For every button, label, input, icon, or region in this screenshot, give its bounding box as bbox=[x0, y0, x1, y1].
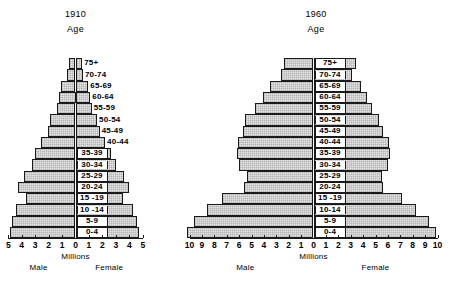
age-band-label: 45-49 bbox=[102, 127, 133, 136]
bar-female-5-9 bbox=[314, 216, 429, 227]
bar-female-45-49 bbox=[314, 126, 383, 137]
bar-female-10 -14 bbox=[76, 204, 134, 215]
x-axis-tick-label: 3 bbox=[106, 240, 126, 250]
age-band-label: 70-74 bbox=[85, 71, 116, 80]
bar-male-70-74 bbox=[67, 69, 75, 80]
age-band-label: 25-29 bbox=[77, 172, 108, 181]
x-axis-tick-label: 2 bbox=[279, 240, 299, 250]
bar-female-15 -19 bbox=[76, 193, 123, 204]
bar-male-5-9 bbox=[12, 216, 76, 227]
age-band-label: 35-39 bbox=[315, 149, 346, 158]
x-axis-tick-mark bbox=[276, 235, 277, 238]
x-axis-tick-mark bbox=[351, 235, 352, 238]
bar-female-40-44 bbox=[314, 137, 390, 148]
age-band-label: 30-34 bbox=[315, 161, 346, 170]
bar-female-5-9 bbox=[76, 216, 138, 227]
bar-male-65-69 bbox=[61, 81, 76, 92]
x-axis-tick-mark bbox=[129, 235, 130, 238]
x-axis-tick-mark bbox=[264, 235, 265, 238]
x-axis-tick-mark bbox=[8, 235, 9, 238]
age-band-label: 0-4 bbox=[77, 228, 108, 237]
male-side-label: Male bbox=[220, 263, 270, 272]
age-axis-title: Age bbox=[36, 24, 116, 34]
x-axis-tick-label: 3 bbox=[341, 240, 361, 250]
bar-male-25-29 bbox=[247, 171, 314, 182]
x-axis-tick-mark bbox=[22, 235, 23, 238]
bar-male-70-74 bbox=[281, 69, 313, 80]
bar-female-0-4 bbox=[314, 227, 437, 238]
x-axis-tick-label: 1 bbox=[316, 240, 336, 250]
x-axis-tick-label: 1 bbox=[291, 240, 311, 250]
age-band-label: 40-44 bbox=[315, 138, 346, 147]
bar-female-75+ bbox=[314, 58, 356, 69]
x-axis-tick-mark bbox=[413, 235, 414, 238]
x-axis-tick-label: 1 bbox=[79, 240, 99, 250]
bar-female-35-39 bbox=[76, 148, 112, 159]
bar-male-75+ bbox=[69, 58, 76, 69]
age-band-label: 55-59 bbox=[94, 104, 125, 113]
age-band-label: 75+ bbox=[84, 59, 115, 68]
bar-female-45-49 bbox=[76, 126, 100, 137]
x-axis-tick-mark bbox=[239, 235, 240, 238]
x-axis-tick-mark bbox=[116, 235, 117, 238]
chart-title-year: 1910 bbox=[36, 9, 116, 19]
x-axis-tick-label: 5 bbox=[242, 240, 262, 250]
x-axis-tick-label: 2 bbox=[328, 240, 348, 250]
age-band-label: 55-59 bbox=[315, 104, 346, 113]
x-axis-tick-mark bbox=[35, 235, 36, 238]
bar-female-30-34 bbox=[314, 159, 388, 170]
bar-male-15 -19 bbox=[222, 193, 314, 204]
bar-male-55-59 bbox=[255, 103, 313, 114]
bar-female-70-74 bbox=[314, 69, 352, 80]
age-band-label: 10-14 bbox=[315, 206, 346, 215]
age-band-label: 40-44 bbox=[107, 138, 138, 147]
age-band-label: 60-64 bbox=[92, 93, 123, 102]
chart-title-year: 1960 bbox=[276, 9, 356, 19]
x-axis-tick-mark bbox=[252, 235, 253, 238]
age-band-label: 20-24 bbox=[77, 183, 108, 192]
population-pyramid-figure: 1910Age0-45-910 -1415 -1920-2425-2930-34… bbox=[0, 0, 451, 281]
x-axis-tick-mark bbox=[363, 235, 364, 238]
bar-female-20-24 bbox=[76, 182, 129, 193]
bar-male-60-64 bbox=[263, 92, 314, 103]
zero-axis-line bbox=[76, 58, 77, 238]
x-axis-tick-label: 7 bbox=[217, 240, 237, 250]
bar-male-30-34 bbox=[239, 159, 313, 170]
x-axis-tick-mark bbox=[326, 235, 327, 238]
bar-male-75+ bbox=[284, 58, 314, 69]
age-band-label: 75+ bbox=[315, 59, 346, 68]
bar-male-20-24 bbox=[244, 182, 313, 193]
bar-female-55-59 bbox=[76, 103, 92, 114]
bar-male-55-59 bbox=[57, 103, 75, 114]
bar-male-65-69 bbox=[270, 81, 313, 92]
x-axis-tick-mark bbox=[388, 235, 389, 238]
female-side-label: Female bbox=[84, 263, 134, 272]
female-side-label: Female bbox=[351, 263, 401, 272]
bar-female-60-64 bbox=[314, 92, 367, 103]
x-axis-tick-label: 10 bbox=[180, 240, 200, 250]
age-band-label: 65-69 bbox=[90, 82, 121, 91]
male-side-label: Male bbox=[14, 263, 64, 272]
x-axis-tick-label: 7 bbox=[390, 240, 410, 250]
x-axis-tick-label: 0 bbox=[304, 240, 324, 250]
x-axis-tick-label: 8 bbox=[204, 240, 224, 250]
x-axis-tick-label: 4 bbox=[353, 240, 373, 250]
x-axis-tick-mark bbox=[338, 235, 339, 238]
x-axis-tick-label: 3 bbox=[25, 240, 45, 250]
bar-male-35-39 bbox=[35, 148, 75, 159]
x-axis-tick-mark bbox=[89, 235, 90, 238]
x-axis-tick-mark bbox=[438, 235, 439, 238]
bar-male-30-34 bbox=[32, 159, 76, 170]
x-axis-tick-label: 5 bbox=[133, 240, 153, 250]
bar-female-20-24 bbox=[314, 182, 383, 193]
x-axis-tick-label: 4 bbox=[254, 240, 274, 250]
bar-male-20-24 bbox=[18, 182, 75, 193]
x-axis-tick-label: 9 bbox=[415, 240, 435, 250]
age-band-label: 15 -19 bbox=[315, 194, 346, 203]
age-band-label: 5-9 bbox=[315, 217, 346, 226]
x-axis-tick-label: 5 bbox=[0, 240, 18, 250]
x-axis-tick-label: 4 bbox=[12, 240, 32, 250]
x-axis-tick-mark bbox=[314, 235, 315, 238]
bar-female-70-74 bbox=[76, 69, 83, 80]
bar-male-50-54 bbox=[245, 114, 313, 125]
